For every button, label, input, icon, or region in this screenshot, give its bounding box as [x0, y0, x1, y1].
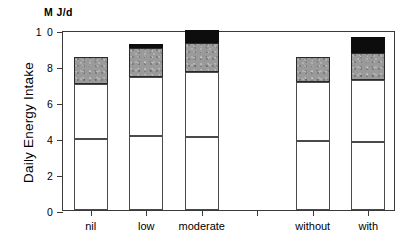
bar-segment-gray: [351, 53, 385, 80]
x-tick-label: with: [358, 220, 378, 232]
x-tick-mark: [257, 210, 258, 216]
y-tick-label: 0: [47, 206, 54, 218]
bar-segment-black: [185, 30, 219, 43]
bar-segment-lower-white: [296, 141, 330, 210]
x-tick-mark: [368, 210, 369, 216]
bar-segment-lower-white: [74, 139, 108, 210]
y-tick-mark: [57, 104, 63, 105]
bar-low: [129, 44, 163, 211]
bar-segment-upper-white: [185, 72, 219, 137]
x-tick-label: without: [295, 220, 330, 232]
bar-with: [351, 37, 385, 210]
bar-segment-upper-white: [129, 77, 163, 136]
bar-segment-lower-white: [129, 136, 163, 210]
x-tick-label: nil: [85, 220, 96, 232]
y-tick-label: 2: [47, 170, 54, 182]
y-axis-title: Daily Energy Intake: [21, 33, 36, 213]
bar-segment-black: [129, 44, 163, 49]
bar-segment-lower-white: [351, 142, 385, 210]
x-tick-label: low: [138, 220, 155, 232]
bar-segment-black: [351, 37, 385, 52]
y-tick-mark: [57, 68, 63, 69]
y-tick-label: 8: [47, 62, 54, 74]
x-tick-mark: [202, 210, 203, 216]
bar-segment-gray: [74, 57, 108, 84]
bar-segment-upper-white: [296, 82, 330, 141]
y-tick-mark: [57, 212, 63, 213]
x-tick-mark: [146, 210, 147, 216]
bar-moderate: [185, 31, 219, 210]
bar-segment-lower-white: [185, 137, 219, 210]
bar-segment-gray: [296, 57, 330, 82]
y-tick-label: 6: [47, 98, 54, 110]
bar-without: [296, 57, 330, 210]
x-tick-label: moderate: [179, 220, 225, 232]
y-tick-label: 1 0: [36, 26, 54, 38]
bar-segment-upper-white: [351, 80, 385, 142]
bar-segment-gray: [129, 48, 163, 77]
y-tick-mark: [57, 32, 63, 33]
y-axis-units-label: M J/d: [44, 6, 73, 18]
y-tick-label: 4: [47, 134, 54, 146]
x-tick-mark: [91, 210, 92, 216]
x-tick-mark: [313, 210, 314, 216]
plot-area: 024681 0 nillowmoderatewithoutwith: [62, 31, 395, 211]
chart-figure: Daily Energy Intake M J/d 024681 0 nillo…: [0, 0, 405, 245]
y-tick-mark: [57, 176, 63, 177]
bar-nil: [74, 57, 108, 210]
bar-segment-gray: [185, 43, 219, 73]
bar-segment-upper-white: [74, 84, 108, 139]
y-tick-mark: [57, 140, 63, 141]
